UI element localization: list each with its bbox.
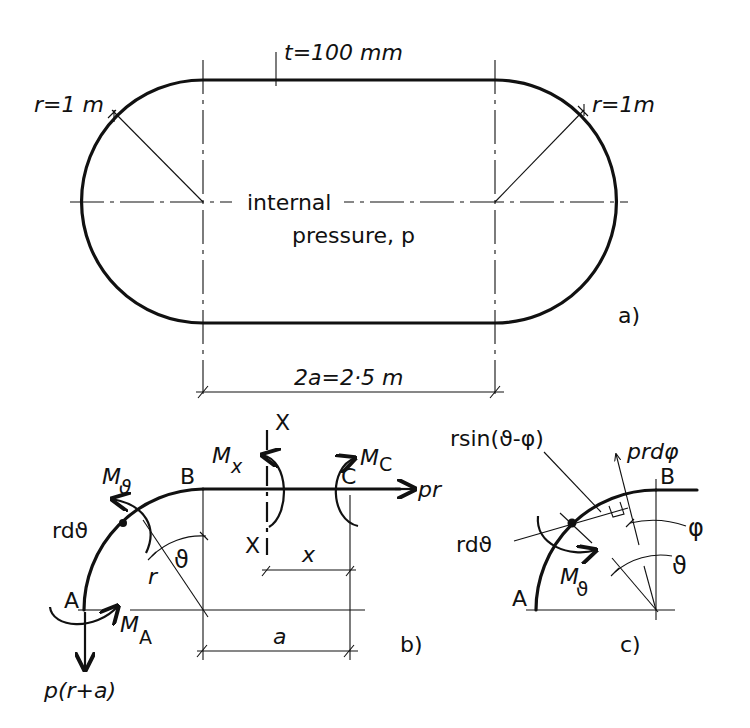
point-c-label: C <box>341 464 356 489</box>
element-length-label: rdϑ <box>52 518 88 543</box>
theta-angle-label: ϑ <box>174 546 189 574</box>
span-label: 2a=2·5 m <box>294 365 403 390</box>
diagram-canvas: t=100 mm r=1 m r=1m internal pressure, p… <box>0 0 750 728</box>
radius-line-c <box>612 558 658 612</box>
left-radius-label: r=1 m <box>34 92 104 117</box>
moment-theta-arrow-c <box>538 516 596 552</box>
right-radius-line <box>495 110 584 202</box>
moment-c-label: MC <box>360 445 392 475</box>
moment-a-label: MA <box>120 612 152 648</box>
element-point <box>119 519 127 527</box>
theta-angle-arc-c <box>615 555 672 572</box>
force-label-c: prdφ <box>626 439 679 464</box>
theta-angle-label-c: ϑ <box>672 552 687 580</box>
lever-arm-label: rsin(ϑ-φ) <box>450 426 544 451</box>
moment-x-label: Mx <box>212 443 243 477</box>
moment-theta-label: Mϑ <box>102 464 131 499</box>
panel-label-c: c) <box>620 632 641 657</box>
pressure-label-line2: pressure, p <box>292 223 415 248</box>
force-prdphi-arrow <box>616 454 639 545</box>
x-distance-label: x <box>301 542 316 567</box>
point-a-label: A <box>64 588 79 613</box>
figure-b-free-body: A B C X X Mϑ Mx MC MA rdϑ r ϑ x a pr p(r… <box>43 410 443 703</box>
figure-a-tank-section: t=100 mm r=1 m r=1m internal pressure, p… <box>34 40 655 398</box>
a-distance-label: a <box>273 624 286 649</box>
thickness-label: t=100 mm <box>284 40 403 65</box>
force-pr-label: pr <box>417 477 443 502</box>
moment-theta-label-c: Mϑ <box>560 564 588 601</box>
pressure-label-line1: internal <box>247 190 331 215</box>
point-b-label-c: B <box>660 464 675 489</box>
panel-label-a: a) <box>618 303 640 328</box>
phi-angle-label: φ <box>688 514 704 542</box>
figure-c-element-detail: rsin(ϑ-φ) prdφ B A φ ϑ rdϑ Mϑ c) <box>450 426 704 657</box>
lever-arm-leader <box>544 452 601 512</box>
force-vertical-label: p(r+a) <box>43 678 116 703</box>
section-bottom-label: X <box>245 533 260 558</box>
point-a-label-c: A <box>512 586 527 611</box>
right-radius-label: r=1m <box>592 92 655 117</box>
lever-arm-line <box>514 508 628 541</box>
element-length-label-c: rdϑ <box>456 532 492 557</box>
left-radius-line <box>112 110 203 202</box>
point-b-label: B <box>180 464 195 489</box>
radius-label: r <box>148 564 159 589</box>
panel-label-b: b) <box>400 632 423 657</box>
moment-x-arrow <box>262 455 284 527</box>
section-top-label: X <box>275 410 290 435</box>
phi-angle-arc <box>630 520 686 526</box>
